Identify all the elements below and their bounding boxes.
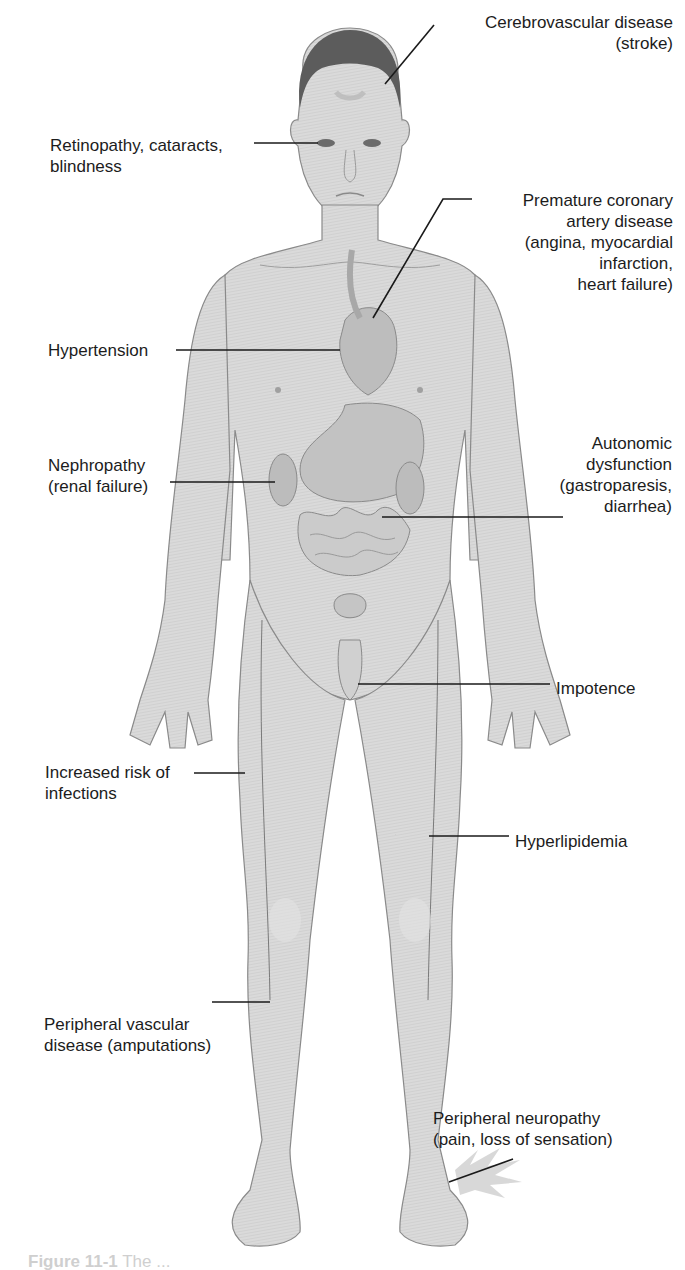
- head: [291, 28, 410, 222]
- label-infections: Increased risk of infections: [45, 762, 205, 804]
- label-autonomic: Autonomic dysfunction (gastroparesis, di…: [520, 433, 672, 517]
- label-hypertension: Hypertension: [48, 340, 178, 361]
- label-hyperlipidemia: Hyperlipidemia: [515, 831, 655, 852]
- caption-rest: The ...: [118, 1252, 171, 1270]
- label-pvd: Peripheral vascular disease (amputations…: [44, 1014, 284, 1056]
- label-cerebrovascular: Cerebrovascular disease (stroke): [433, 12, 673, 54]
- right-kidney: [396, 462, 424, 514]
- bladder: [334, 594, 366, 618]
- label-nephropathy: Nephropathy (renal failure): [48, 455, 178, 497]
- label-neuropathy: Peripheral neuropathy (pain, loss of sen…: [433, 1108, 673, 1150]
- pain-burst-icon: [455, 1148, 522, 1198]
- caption-lead: Figure 11-1: [28, 1252, 118, 1270]
- left-kidney: [269, 454, 297, 506]
- label-retinopathy: Retinopathy, cataracts, blindness: [50, 135, 270, 177]
- left-eye: [317, 139, 335, 147]
- label-impotence: Impotence: [556, 678, 656, 699]
- figure-caption: Figure 11-1 The ...: [28, 1252, 170, 1270]
- label-coronary: Premature coronary artery disease (angin…: [470, 190, 673, 295]
- right-eye: [363, 139, 381, 147]
